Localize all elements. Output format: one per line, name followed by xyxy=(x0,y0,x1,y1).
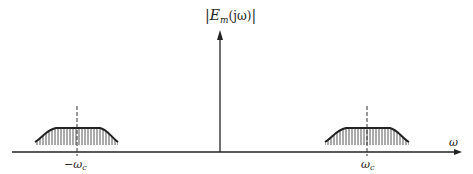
omega-axis-label: ω xyxy=(449,136,458,149)
right-spectral-lobe xyxy=(325,106,409,156)
left-spectral-lobe xyxy=(35,106,118,156)
neg-omega-c-label: −ωc xyxy=(64,158,87,172)
impulse-arrow xyxy=(217,30,223,152)
axis-arrowhead-icon xyxy=(454,149,462,155)
magnitude-label: |Em(jω)| xyxy=(205,7,256,25)
omega-axis xyxy=(12,149,462,155)
impulse-arrowhead-icon xyxy=(217,30,223,40)
omega-c-label: ωc xyxy=(361,158,375,172)
spectrum-diagram: |Em(jω)| ω −ωc ωc xyxy=(0,0,473,174)
